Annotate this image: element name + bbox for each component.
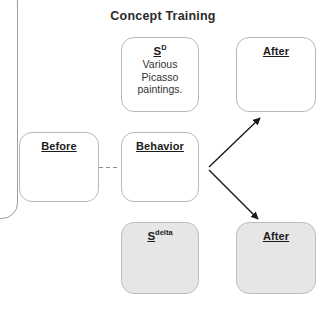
node-s-zero-symbol: SD [122, 45, 198, 58]
node-behavior: Behavior [121, 132, 199, 202]
node-behavior-label: Behavior [122, 140, 198, 153]
node-before-label: Before [20, 140, 98, 153]
node-s-zero-line-3: paintings. [122, 83, 198, 96]
arrow-behavior-to-after-top [209, 118, 260, 167]
node-s-delta: Sdelta [121, 222, 199, 294]
concept-training-diagram: Concept Training SD Various Picasso pain… [0, 0, 326, 310]
node-s-delta-symbol-base: S [147, 230, 155, 242]
left-frame-box [0, 0, 18, 219]
node-s-zero-line-1: Various [122, 58, 198, 71]
node-s-zero: SD Various Picasso paintings. [121, 37, 199, 112]
node-after-top: After [236, 37, 316, 112]
node-after-top-label: After [237, 45, 315, 58]
diagram-title: Concept Training [0, 9, 326, 23]
node-s-zero-line-2: Picasso [122, 71, 198, 84]
node-after-bottom-label: After [237, 230, 315, 243]
node-s-zero-symbol-base: S [153, 45, 161, 57]
node-after-bottom: After [236, 222, 316, 294]
arrow-behavior-to-after-bottom [209, 170, 258, 219]
node-before: Before [19, 132, 99, 202]
node-s-zero-symbol-superscript: D [161, 43, 166, 52]
node-s-delta-symbol: Sdelta [122, 230, 198, 243]
node-s-delta-symbol-superscript: delta [155, 228, 173, 237]
